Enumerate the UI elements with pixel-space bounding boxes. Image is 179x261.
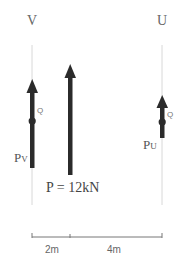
force-diagram: V U Q Q PV PU P = 12kN 2m 4m — [0, 0, 179, 261]
support-label-v: V — [27, 13, 37, 29]
point-q-label-v: Q — [37, 106, 43, 115]
force-label-pu: PU — [143, 137, 157, 153]
force-label-p: P = 12kN — [46, 180, 99, 196]
diagram-canvas — [0, 0, 179, 261]
dimension-line — [32, 233, 162, 238]
force-arrow-p — [65, 64, 77, 175]
support-label-u: U — [157, 13, 167, 29]
force-label-pu-sub: U — [150, 141, 157, 151]
force-arrow-pv — [27, 79, 39, 168]
point-q-label-u: Q — [167, 110, 173, 119]
dimension-label-2m: 2m — [45, 244, 59, 255]
dimension-label-4m: 4m — [107, 244, 121, 255]
point-q-dot-v — [29, 117, 36, 124]
force-label-pv-sub: V — [21, 154, 28, 164]
force-label-pv: PV — [14, 150, 28, 166]
point-q-dot-u — [159, 118, 166, 125]
